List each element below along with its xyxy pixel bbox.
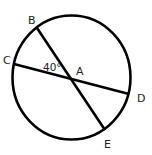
label-d: D	[137, 92, 145, 105]
label-e: E	[104, 138, 111, 151]
label-c: C	[3, 54, 11, 67]
circle-diagram: B C A D E 40°	[0, 0, 152, 155]
label-b: B	[28, 14, 36, 27]
chord-cd	[14, 64, 129, 94]
angle-label: 40°	[43, 61, 62, 73]
label-a: A	[76, 65, 84, 78]
